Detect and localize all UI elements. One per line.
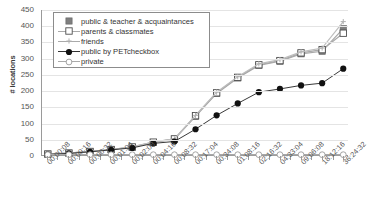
data-point [256, 89, 262, 95]
data-point [235, 100, 241, 106]
legend-marker [58, 57, 80, 67]
legend-label: private [81, 57, 104, 66]
legend-label: public & teacher & acquaintances [81, 17, 194, 26]
chart-legend: public & teacher & acquaintancesparents … [53, 12, 210, 68]
y-tick-label: 100 [8, 120, 34, 128]
y-tick-label: 450 [8, 6, 34, 14]
data-point [319, 80, 325, 86]
gridline [42, 124, 348, 125]
data-point [192, 126, 198, 132]
legend-label: public by PETcheckbox [81, 47, 159, 56]
gridline [42, 107, 348, 108]
legend-label: friends [81, 37, 104, 46]
legend-marker-glyph [58, 57, 80, 67]
legend-item-4: public by PETcheckbox [58, 47, 205, 57]
data-point [214, 112, 220, 118]
gridline [42, 10, 348, 11]
y-tick-label: 350 [8, 38, 34, 46]
legend-item-5: private [58, 57, 205, 67]
gridline [42, 91, 348, 92]
y-tick-label: 400 [8, 22, 34, 30]
legend-symbol [66, 39, 71, 44]
legend-marker-glyph [58, 36, 80, 46]
legend-marker-glyph [58, 16, 80, 26]
legend-symbol [66, 49, 72, 55]
legend-symbol [66, 28, 72, 34]
legend-item-2: parents & classmates [58, 26, 205, 36]
legend-marker-glyph [58, 47, 80, 57]
data-point [340, 66, 346, 72]
legend-item-3: friends [58, 36, 205, 46]
legend-marker [58, 36, 80, 46]
x-axis-tick-labels: 00:00:0800:00:1600:00:3200:01:0400:02:08… [0, 158, 355, 213]
legend-marker [58, 26, 80, 36]
legend-marker-glyph [58, 26, 80, 36]
y-tick-label: 200 [8, 87, 34, 95]
legend-label: parents & classmates [81, 27, 154, 36]
legend-symbol [66, 59, 72, 65]
data-point [298, 82, 304, 88]
y-tick-label: 300 [8, 55, 34, 63]
y-tick-label: 50 [8, 136, 34, 144]
legend-symbol [66, 18, 72, 24]
y-tick-label: 250 [8, 71, 34, 79]
gridline [42, 75, 348, 76]
data-point [340, 30, 346, 36]
legend-marker [58, 16, 80, 26]
y-tick-label: 150 [8, 103, 34, 111]
legend-marker [58, 47, 80, 57]
legend-item-1: public & teacher & acquaintances [58, 16, 205, 26]
